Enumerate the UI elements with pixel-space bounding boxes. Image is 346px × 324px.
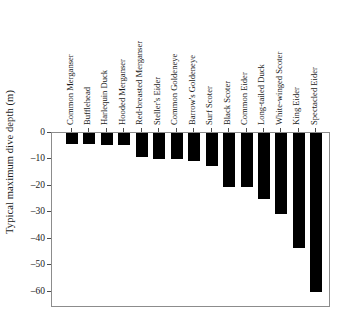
x-axis-tick-mark [106, 128, 107, 132]
y-axis-tick-label: –40 [15, 233, 45, 243]
x-axis-tick-mark [158, 128, 159, 132]
category-label-text: Hooded Merganser [118, 59, 127, 125]
y-axis-tick-label: –50 [15, 259, 45, 269]
plot-area [51, 132, 330, 307]
y-axis-tick-label: –60 [15, 286, 45, 296]
bar [136, 133, 148, 157]
bar [101, 133, 113, 145]
category-label-text: Common Eider [240, 72, 249, 125]
category-label-text: Spectacled Eider [310, 67, 319, 125]
y-axis-tick-label: 0 [15, 127, 45, 137]
bar [206, 133, 218, 166]
y-axis-tick-label: –30 [15, 206, 45, 216]
y-axis-tick-label: –10 [15, 153, 45, 163]
category-label-text: Common Merganser [66, 54, 75, 125]
bar [83, 133, 95, 144]
x-axis-tick-mark [88, 128, 89, 132]
x-axis-tick-mark [280, 128, 281, 132]
category-label-text: Black Scoter [223, 81, 232, 125]
x-axis-tick-mark [123, 128, 124, 132]
category-label-text: White-winged Scoter [275, 52, 284, 125]
bar [66, 133, 78, 144]
bar [241, 133, 253, 187]
bar [118, 133, 130, 145]
y-axis-title-text: Typical maximum dive depth (m) [4, 90, 15, 234]
category-label-text: Surf Scoter [205, 86, 214, 125]
x-axis-tick-mark [211, 128, 212, 132]
x-axis-tick-mark [246, 128, 247, 132]
category-label-text: Common Goldeneye [170, 54, 179, 125]
x-axis-tick-mark [263, 128, 264, 132]
category-label-text: Harlequin Duck [100, 70, 109, 125]
x-axis-tick-mark [176, 128, 177, 132]
y-axis-tick-label: –20 [15, 180, 45, 190]
x-axis-tick-mark [193, 128, 194, 132]
bar [223, 133, 235, 187]
category-label-text: Long-tailed Duck [257, 64, 266, 125]
bar [310, 133, 322, 292]
x-axis-tick-mark [141, 128, 142, 132]
bar [293, 133, 305, 248]
category-label-text: Bufflehead [83, 87, 92, 125]
category-label-text: King Eider [292, 87, 301, 125]
dive-depth-bar-chart: Typical maximum dive depth (m) 0–10–20–3… [0, 0, 346, 324]
x-axis-tick-mark [315, 128, 316, 132]
bar [153, 133, 165, 159]
category-label-text: Barrow's Goldeneye [188, 55, 197, 125]
x-axis-tick-mark [71, 128, 72, 132]
bar [188, 133, 200, 161]
category-label-text: Red-breasted Merganser [135, 41, 144, 125]
category-label-text: Steller's Eider [153, 77, 162, 125]
x-axis-tick-mark [228, 128, 229, 132]
bar [258, 133, 270, 199]
bar [275, 133, 287, 214]
bar [171, 133, 183, 159]
x-axis-tick-mark [298, 128, 299, 132]
